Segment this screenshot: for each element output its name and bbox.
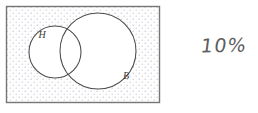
set-label-b: B [123,70,129,81]
set-label-h: H [37,29,46,40]
venn-diagram-figure: H B 10% [0,0,258,113]
venn-diagram-canvas: H B [0,0,258,113]
